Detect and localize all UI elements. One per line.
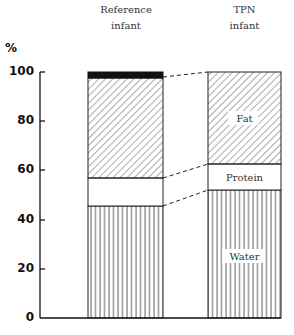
- y-axis-unit-label: %: [5, 41, 35, 55]
- bar-reference-infant: [88, 72, 163, 318]
- y-tick-100: 100: [4, 64, 34, 78]
- bar-tpn-infant: [208, 72, 281, 318]
- category-label-line1: TPN: [208, 3, 281, 16]
- segment-label-fat: Fat: [208, 112, 281, 125]
- dashed-connectors: [163, 72, 208, 206]
- y-tick-40: 40: [4, 212, 34, 226]
- segment-label-water: Water: [208, 250, 281, 263]
- category-label-reference: Reference infant: [90, 3, 162, 32]
- category-label-line2: infant: [208, 19, 281, 32]
- category-label-tpn: TPN infant: [208, 3, 281, 32]
- y-tick-20: 20: [4, 261, 34, 275]
- stacked-bar-chart: [0, 0, 294, 335]
- segment-label-protein: Protein: [208, 171, 281, 184]
- category-label-line2: infant: [90, 19, 162, 32]
- y-tick-0: 0: [4, 310, 34, 324]
- y-tick-80: 80: [4, 113, 34, 127]
- category-label-line1: Reference: [90, 3, 162, 16]
- y-tick-60: 60: [4, 162, 34, 176]
